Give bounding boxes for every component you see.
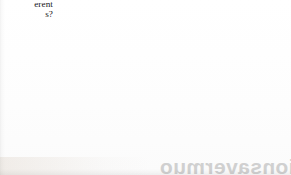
venn-diagram (0, 0, 291, 175)
margin-text-line-2: s? (0, 10, 53, 20)
margin-clipped-text: erent s? (0, 0, 53, 19)
scanned-page: erent s? tionsavermuo (0, 0, 291, 175)
